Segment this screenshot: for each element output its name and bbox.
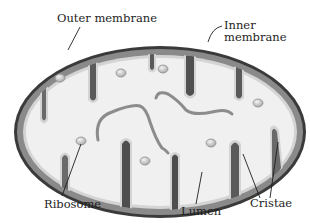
ribosome-7 <box>206 139 216 147</box>
label-outer-membrane: Outer membrane <box>57 12 157 24</box>
ribosome-1 <box>55 74 65 82</box>
crista-top-5 <box>234 48 244 101</box>
ribosome-3 <box>158 65 168 73</box>
label-cristae: Cristae <box>250 197 292 209</box>
label-inner-membrane-line2: membrane <box>224 31 287 43</box>
ribosome-6 <box>140 157 150 165</box>
ribosome-5 <box>76 137 86 145</box>
leader-outer-membrane <box>68 27 80 50</box>
crista-top-2 <box>88 45 98 103</box>
mitochondrion-diagram: Outer membrane Inner membrane Ribosome L… <box>0 0 310 224</box>
ribosome-2 <box>116 69 126 77</box>
label-ribosome: Ribosome <box>44 198 101 210</box>
label-lumen: Lumen <box>181 205 221 217</box>
ribosome-4 <box>253 99 263 107</box>
crista-bottom-3 <box>170 152 180 218</box>
leader-inner-membrane <box>208 26 222 42</box>
crista-bottom-2 <box>120 138 132 218</box>
